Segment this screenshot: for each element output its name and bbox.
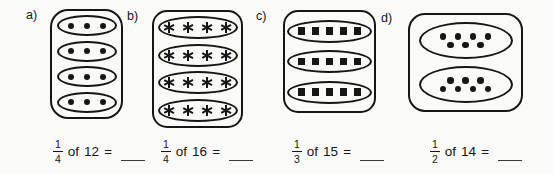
- panel-c-label: c): [256, 10, 266, 23]
- oval-row: [298, 88, 362, 96]
- fraction-d: 1 2: [430, 138, 440, 165]
- of-word: of: [445, 145, 456, 159]
- dot-item: [470, 86, 477, 93]
- dot-item: [100, 23, 106, 29]
- dot-item: [447, 77, 454, 84]
- square-item: [326, 27, 334, 35]
- panel-b-groups-box: [152, 10, 243, 128]
- square-item: [340, 58, 348, 66]
- dot-item: [485, 33, 492, 40]
- asterisk-item: [183, 22, 194, 33]
- fraction-d-denominator: 2: [430, 151, 440, 165]
- dot-item: [84, 99, 90, 105]
- panel-d-label: d): [381, 12, 392, 25]
- oval-row: [68, 48, 106, 54]
- group-oval: [158, 71, 238, 94]
- total-number: 14: [461, 145, 476, 159]
- panel-b-label: b): [127, 10, 138, 23]
- of-word: of: [307, 145, 318, 159]
- square-item: [340, 88, 348, 96]
- oval-row: [68, 99, 106, 105]
- dot-item: [455, 33, 462, 40]
- oval-row: [68, 23, 106, 29]
- asterisk-item: [183, 77, 194, 88]
- problem-c: 1 3 of 15 =: [292, 138, 384, 165]
- asterisk-item: [164, 105, 175, 116]
- dot-item: [100, 48, 106, 54]
- square-item: [326, 58, 334, 66]
- group-oval: [57, 92, 117, 113]
- group-oval: [158, 16, 238, 39]
- total-number: 15: [323, 145, 338, 159]
- panel-c-groups-box: [283, 10, 376, 113]
- dot-item: [447, 42, 454, 49]
- asterisk-item: [202, 105, 213, 116]
- group-oval: [57, 66, 117, 87]
- oval-row: [164, 22, 232, 33]
- dot-item: [68, 99, 74, 105]
- dot-item: [462, 77, 469, 84]
- oval-row: [298, 27, 362, 35]
- answer-blank: [229, 158, 253, 161]
- total-number: 12: [84, 145, 99, 159]
- answer-blank: [360, 158, 384, 161]
- group-oval: [158, 99, 238, 122]
- total-number: 16: [192, 145, 207, 159]
- problem-b: 1 4 of 16 =: [161, 138, 253, 165]
- fraction-c: 1 3: [292, 138, 302, 165]
- dot-item: [100, 74, 106, 80]
- asterisk-item: [221, 105, 232, 116]
- dot-item: [477, 42, 484, 49]
- asterisk-item: [183, 105, 194, 116]
- panel-a-label: a): [26, 9, 37, 22]
- group-oval: [419, 66, 513, 103]
- group-oval: [287, 20, 372, 43]
- group-oval: [287, 50, 372, 73]
- square-item: [312, 88, 320, 96]
- group-oval: [57, 15, 117, 36]
- asterisk-item: [202, 77, 213, 88]
- fraction-a-numerator: 1: [53, 138, 63, 151]
- group-oval: [419, 22, 513, 59]
- equals-sign: =: [212, 145, 220, 159]
- oval-row: [298, 58, 362, 66]
- of-word: of: [68, 145, 79, 159]
- oval-row: [164, 105, 232, 116]
- dot-item: [68, 23, 74, 29]
- oval-row: [440, 33, 492, 40]
- dot-item: [100, 99, 106, 105]
- dot-item: [84, 48, 90, 54]
- fraction-d-numerator: 1: [430, 138, 440, 151]
- dot-item: [440, 86, 447, 93]
- square-item: [340, 27, 348, 35]
- dot-item: [440, 33, 447, 40]
- equals-sign: =: [481, 145, 489, 159]
- oval-row: [164, 50, 232, 61]
- dot-item: [485, 86, 492, 93]
- group-oval: [158, 44, 238, 67]
- fraction-a: 1 4: [53, 138, 63, 165]
- square-item: [298, 88, 306, 96]
- group-oval: [57, 41, 117, 62]
- equals-sign: =: [343, 145, 351, 159]
- asterisk-item: [164, 22, 175, 33]
- fraction-b-denominator: 4: [161, 151, 171, 165]
- dot-item: [462, 42, 469, 49]
- square-item: [298, 27, 306, 35]
- problem-d: 1 2 of 14 =: [430, 138, 522, 165]
- group-oval: [287, 81, 372, 104]
- square-item: [312, 27, 320, 35]
- asterisk-item: [202, 50, 213, 61]
- of-word: of: [176, 145, 187, 159]
- dot-item: [477, 77, 484, 84]
- fraction-b: 1 4: [161, 138, 171, 165]
- oval-row: [447, 77, 484, 84]
- panel-a-groups-box: [50, 9, 123, 119]
- dot-item: [68, 48, 74, 54]
- answer-blank: [498, 158, 522, 161]
- square-item: [326, 88, 334, 96]
- square-item: [354, 27, 362, 35]
- asterisk-item: [221, 50, 232, 61]
- asterisk-item: [183, 50, 194, 61]
- oval-row: [440, 86, 492, 93]
